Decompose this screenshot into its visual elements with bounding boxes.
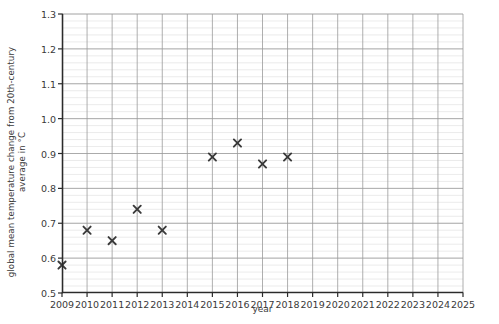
- y-tick-label: 0.5: [41, 288, 56, 299]
- x-axis-label: year: [62, 304, 463, 314]
- y-axis-label-line1: global mean temperature change from 20th…: [6, 47, 17, 277]
- y-tick-label: 0.8: [41, 183, 56, 194]
- chart-figure: global mean temperature change from 20th…: [0, 0, 499, 324]
- y-tick-label: 1.0: [41, 113, 56, 124]
- y-tick-label: 0.9: [41, 148, 56, 159]
- plot-area: 0.50.60.70.80.91.01.11.21.3 200920102011…: [62, 14, 463, 293]
- y-tick-label: 0.6: [41, 253, 56, 264]
- y-tick-label: 0.7: [41, 218, 56, 229]
- y-axis-label: global mean temperature change from 20th…: [0, 0, 34, 324]
- y-tick-label: 1.3: [41, 9, 56, 20]
- y-axis-label-line2: average in °C: [17, 47, 28, 277]
- y-tick-label: 1.1: [41, 78, 56, 89]
- axis-spines-and-ticks: [62, 14, 463, 293]
- y-tick-label: 1.2: [41, 43, 56, 54]
